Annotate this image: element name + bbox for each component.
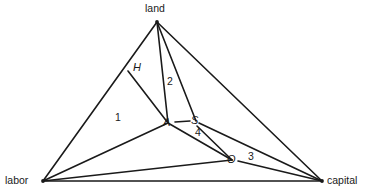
region-label-1: 1 — [115, 112, 121, 123]
edge-layer — [43, 22, 322, 181]
edge-O-capital — [238, 161, 322, 181]
triangle-diagram-svg — [0, 0, 372, 195]
node-layer — [41, 20, 324, 183]
vertex-point-capital — [320, 179, 324, 183]
region-label-3: 3 — [248, 151, 254, 162]
edge-A-S — [175, 121, 190, 122]
edge-labor-O — [43, 160, 232, 181]
vertex-label-labor: labor — [5, 175, 28, 186]
vertex-point-labor — [41, 179, 45, 183]
edge-land-capital — [157, 22, 322, 181]
vertex-label-land: land — [145, 3, 165, 14]
node-label-a: A — [163, 117, 170, 128]
edge-land-labor — [43, 22, 157, 181]
edge-labor-A — [43, 123, 168, 181]
vertex-point-land — [155, 20, 159, 24]
node-label-h: H — [133, 62, 141, 73]
node-label-o: O — [227, 154, 236, 165]
edge-H-A — [128, 71, 168, 123]
region-label-4: 4 — [195, 127, 201, 138]
vertex-label-capital: capital — [327, 175, 357, 186]
diagram-canvas: land labor capital A S O H 1 2 3 4 — [0, 0, 372, 195]
node-label-s: S — [191, 115, 198, 126]
region-label-2: 2 — [167, 76, 173, 87]
